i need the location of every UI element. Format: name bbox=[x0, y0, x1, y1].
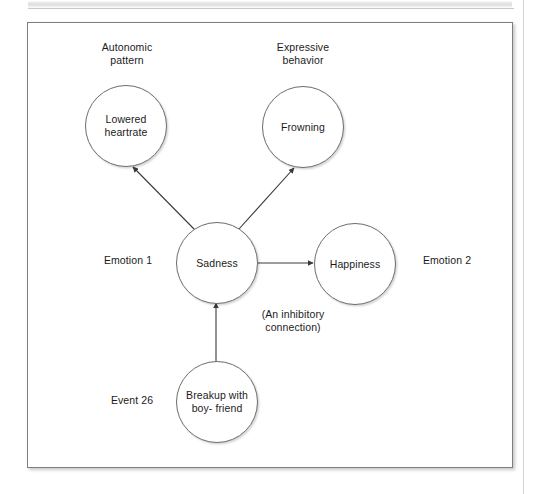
edge-sadness-frowning bbox=[239, 168, 294, 229]
caption-emotion-2: Emotion 2 bbox=[405, 254, 489, 267]
node-frowning-label: Frowning bbox=[277, 121, 329, 134]
caption-event-26: Event 26 bbox=[94, 394, 170, 407]
caption-expressive-behavior: Expressive behavior bbox=[248, 41, 358, 67]
caption-emotion-1: Emotion 1 bbox=[86, 254, 170, 267]
node-breakup-with-boyfriend: Breakup with boy- friend bbox=[176, 361, 258, 443]
node-sadness-label: Sadness bbox=[192, 257, 242, 270]
page-scan-band bbox=[28, 1, 512, 8]
edge-sadness-lowered-heartrate bbox=[133, 167, 194, 229]
page-scan-band-edge bbox=[28, 8, 514, 9]
node-breakup-with-boyfriend-label: Breakup with boy- friend bbox=[177, 389, 257, 415]
scanned-page: Lowered heartrate Frowning Sadness Happi… bbox=[0, 0, 542, 494]
node-happiness: Happiness bbox=[314, 223, 396, 305]
node-happiness-label: Happiness bbox=[326, 258, 385, 271]
figure-frame: Lowered heartrate Frowning Sadness Happi… bbox=[27, 22, 513, 468]
node-sadness: Sadness bbox=[176, 222, 258, 304]
caption-inhibitory-connection: (An inhibitory connection) bbox=[233, 308, 353, 334]
caption-autonomic-pattern: Autonomic pattern bbox=[72, 41, 182, 67]
node-lowered-heartrate-label: Lowered heartrate bbox=[86, 113, 166, 139]
node-frowning: Frowning bbox=[262, 86, 344, 168]
diagram-canvas: Lowered heartrate Frowning Sadness Happi… bbox=[28, 23, 512, 467]
page-gutter-line bbox=[523, 0, 524, 494]
node-lowered-heartrate: Lowered heartrate bbox=[85, 85, 167, 167]
